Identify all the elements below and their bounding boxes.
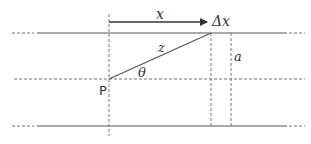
z-label: z [157,40,165,55]
a-label: a [234,49,242,64]
x-label: x [156,6,164,22]
delta-x-label: Δx [211,13,230,29]
point-p-label: P [99,83,107,98]
geometry-diagram: x Δx z θ a P [0,0,311,144]
theta-label: θ [138,65,146,80]
